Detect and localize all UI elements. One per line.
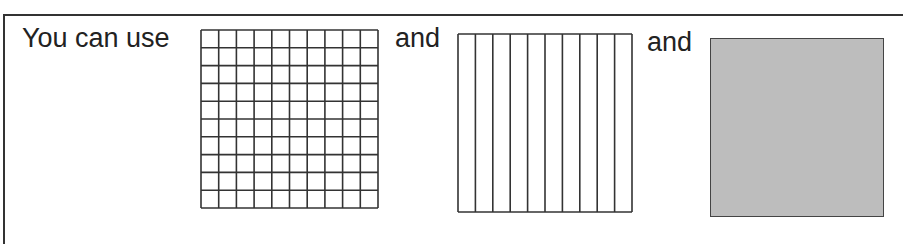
intro-text: You can use [22,25,170,52]
tens-strips [457,33,633,213]
and-text-2: and [647,29,692,56]
shaded-square [710,38,884,217]
and-text-1: and [395,25,440,52]
hundreds-grid [200,29,379,209]
